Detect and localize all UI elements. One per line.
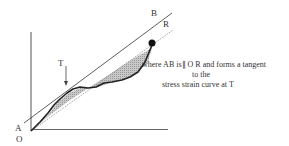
label-A: A <box>15 124 22 133</box>
stress-strain-diagram <box>0 0 289 146</box>
label-O: O <box>16 135 23 144</box>
caption-line-3: stress strain curve at T <box>162 79 234 90</box>
label-T: T <box>58 59 64 68</box>
curve-end-point <box>149 40 156 47</box>
label-R: R <box>163 20 169 29</box>
arrow-head-icon <box>64 81 68 86</box>
label-B: B <box>151 9 157 18</box>
